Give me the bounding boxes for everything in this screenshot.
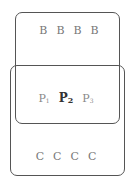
c-letter: C [36,151,44,162]
p1-sub: 1 [46,97,50,104]
p3-label: P3 [82,93,93,104]
b-letter: B [74,25,82,36]
p2-base: P [59,91,68,105]
c-letter: C [71,151,79,162]
p3-sub: 3 [90,97,94,104]
b-letter: B [56,25,64,36]
b-letter: B [91,25,99,36]
p-row: P1 P2 P3 [0,92,132,104]
overlap-diagram: B B B B P1 P2 P3 C C C C [0,0,132,188]
c-letter: C [53,151,61,162]
c-row: C C C C [0,151,132,162]
b-letter: B [39,25,47,36]
p3-base: P [82,92,89,105]
p2-label: P2 [59,92,74,104]
c-letter: C [88,151,96,162]
p1-label: P1 [38,93,49,104]
p2-sub: 2 [68,95,74,105]
p1-base: P [38,92,45,105]
b-row: B B B B [3,25,132,36]
